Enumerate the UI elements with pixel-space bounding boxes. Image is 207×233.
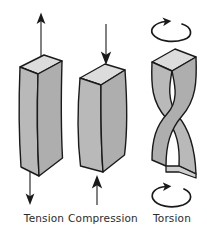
panel-torsion: Torsion — [152, 22, 197, 225]
panel-tension: Tension — [19, 13, 64, 225]
tension-arrow-down — [26, 172, 35, 205]
torsion-arrow-bottom — [152, 187, 190, 207]
caption-torsion: Torsion — [152, 212, 191, 224]
panel-compression: Compression — [68, 24, 138, 224]
compression-prism-front-face — [78, 78, 103, 172]
tension-prism — [19, 55, 62, 176]
tension-prism-side-face — [37, 61, 62, 176]
caption-compression: Compression — [68, 212, 138, 224]
torsion-prism — [152, 49, 197, 178]
torsion-arrow-top — [152, 22, 191, 42]
diagram-canvas: Tension Compression — [0, 0, 207, 233]
compression-arrow-down — [101, 24, 111, 65]
tension-arrow-up — [37, 13, 46, 59]
caption-tension: Tension — [23, 212, 64, 224]
tension-prism-front-face — [19, 67, 39, 176]
compression-prism-side-face — [101, 70, 127, 172]
compression-prism — [78, 64, 127, 172]
stress-types-diagram: Tension Compression — [0, 0, 207, 233]
compression-arrow-up — [92, 175, 102, 205]
